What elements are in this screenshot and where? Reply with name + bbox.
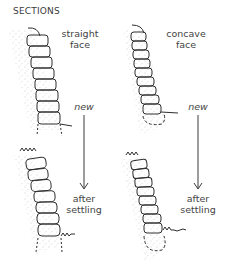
straight-face-label: straight face [55, 28, 105, 50]
label-straight: straight [55, 28, 105, 39]
label-settling: settling [176, 204, 220, 215]
new-label-right: new [182, 101, 214, 112]
new-label-left: new [68, 101, 100, 112]
concave-face-label: concave face [160, 28, 212, 50]
label-settling: settling [62, 204, 106, 215]
label-face: face [160, 39, 212, 50]
label-after: after [176, 193, 220, 204]
label-after: after [62, 193, 106, 204]
arrow-right [194, 115, 202, 189]
after-settling-label-right: after settling [176, 193, 220, 215]
label-concave: concave [160, 28, 212, 39]
arrow-left [80, 115, 88, 189]
after-settling-label-left: after settling [62, 193, 106, 215]
label-face: face [55, 39, 105, 50]
